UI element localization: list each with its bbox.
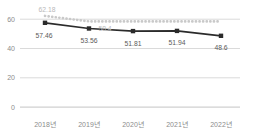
data-label: 58.4: [98, 25, 111, 32]
y-tick-label-20: 20: [7, 74, 15, 81]
x-axis-labels: 2018년 2019년 2020년 2021년 2022년: [34, 120, 232, 128]
x-tick-label-2020: 2020년: [122, 120, 144, 128]
data-label: 51.94: [168, 39, 185, 46]
x-tick-label-2022: 2022년: [210, 120, 232, 128]
data-label: 57.46: [35, 32, 52, 39]
data-point-marker: [175, 29, 179, 33]
series-light-data-labels: 62.18 58.4: [38, 6, 111, 32]
data-point-marker: [43, 21, 47, 25]
x-tick-label-2019: 2019년: [78, 120, 100, 128]
y-axis-labels: 60 40 20 0: [7, 16, 15, 111]
y-gridlines: [20, 19, 240, 107]
x-tick-label-2021: 2021년: [166, 120, 188, 128]
series-light-path: [45, 16, 221, 22]
data-label: 48.6: [214, 44, 227, 51]
x-tick-label-2018: 2018년: [34, 120, 56, 128]
y-tick-label-0: 0: [11, 104, 15, 111]
y-tick-label-60: 60: [7, 16, 15, 23]
data-point-marker: [219, 34, 223, 38]
data-label: 62.18: [38, 6, 55, 13]
data-point-marker: [87, 26, 91, 30]
series-dark-line: [43, 21, 223, 38]
y-tick-label-40: 40: [7, 45, 15, 52]
series-light-line: [45, 16, 221, 22]
data-label: 53.56: [80, 37, 97, 44]
data-point-marker: [131, 29, 135, 33]
line-chart: 60 40 20 0 62.18 58.4 57.46 53.56 51.81: [0, 0, 254, 136]
chart-canvas: 60 40 20 0 62.18 58.4 57.46 53.56 51.81: [0, 0, 254, 136]
data-label: 51.81: [124, 40, 141, 47]
